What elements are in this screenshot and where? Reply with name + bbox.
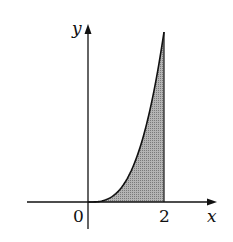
- y-axis-arrow-icon: [85, 24, 92, 34]
- area-under-curve-plot: y x 0 2: [0, 0, 233, 242]
- y-axis-label: y: [71, 18, 82, 38]
- shaded-region: [88, 32, 164, 202]
- x-axis-label: x: [207, 206, 217, 226]
- origin-label: 0: [73, 206, 84, 226]
- tick-label-2: 2: [159, 206, 170, 226]
- x-axis-arrow-icon: [207, 199, 217, 206]
